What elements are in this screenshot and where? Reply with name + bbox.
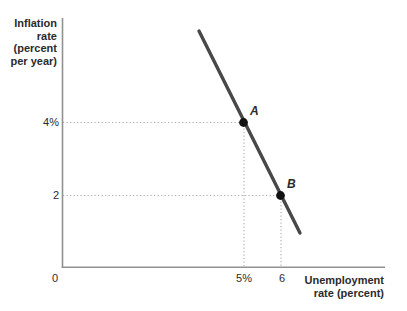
origin-label: 0 [35,272,75,285]
y-tick-4pct: 4% [0,116,59,129]
y-axis-title: Inflation rate (percent per year) [0,17,57,67]
point-b-dot [276,191,285,200]
phillips-curve-figure: Inflation rate (percent per year) 4% 2 0… [0,0,407,311]
point-b-label: B [287,177,296,191]
x-axis-title: Unemployment rate (percent) [244,274,384,300]
point-a-label: A [250,104,259,118]
phillips-curve-line [199,31,300,233]
y-tick-2: 2 [0,189,59,202]
chart-canvas [0,0,407,311]
point-a-dot [239,118,248,127]
